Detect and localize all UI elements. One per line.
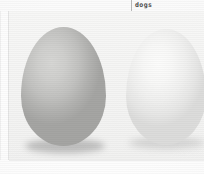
caption-label: dogs bbox=[135, 1, 152, 10]
vertical-rule-icon bbox=[131, 0, 132, 11]
page-edge-line bbox=[8, 0, 9, 163]
document-page: dogs bbox=[0, 0, 204, 174]
page-bottom-rule bbox=[9, 160, 204, 161]
caption-strip bbox=[0, 0, 204, 11]
page-bottom-margin bbox=[0, 160, 204, 174]
page-outer-edge-line bbox=[0, 0, 1, 174]
figure-photograph bbox=[9, 11, 204, 160]
left-egg bbox=[21, 27, 106, 146]
right-egg bbox=[126, 29, 204, 145]
